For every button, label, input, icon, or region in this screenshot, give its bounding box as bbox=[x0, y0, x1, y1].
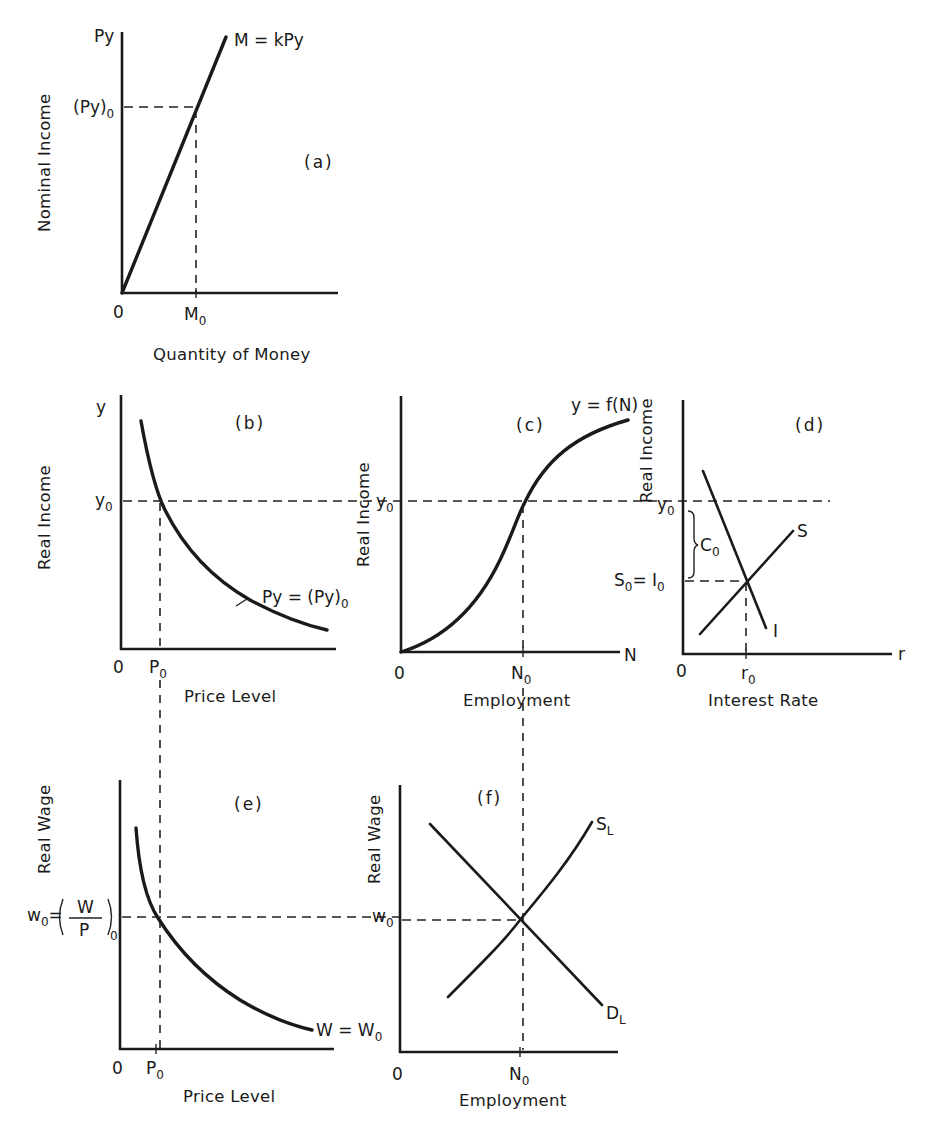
panel-d-y-mark-2: S0= I0 bbox=[614, 570, 665, 594]
panel-b-x-mark: P0 bbox=[149, 657, 167, 681]
panel-d-investment-label: I bbox=[773, 621, 778, 641]
panel-b-origin: 0 bbox=[113, 657, 124, 677]
panel-c: (c) y = f(N) y0 N 0 N0 Employment Real I… bbox=[354, 395, 638, 1050]
panel-a-y-mark: (Py)0 bbox=[73, 97, 114, 121]
panel-d-x-mark: r0 bbox=[741, 663, 756, 687]
panel-b-y-mark: y0 bbox=[95, 490, 113, 514]
panel-a-money-demand-line bbox=[122, 37, 226, 293]
svg-text:P: P bbox=[79, 920, 89, 940]
panel-b-tag: (b) bbox=[235, 413, 265, 433]
panel-c-origin: 0 bbox=[394, 663, 405, 683]
panel-b-y-axis-top-label: y bbox=[96, 397, 106, 417]
panel-a: Py (Py)0 M = kPy (a) 0 M0 Quantity of Mo… bbox=[35, 26, 338, 364]
panel-c-y-mark: y0 bbox=[376, 491, 394, 515]
panel-f-origin: 0 bbox=[392, 1064, 403, 1084]
panel-b-y-axis-title: Real Income bbox=[35, 465, 54, 570]
panel-f-x-axis-title: Employment bbox=[459, 1091, 567, 1110]
panel-e-y-mark: w0= W P 0 bbox=[27, 897, 118, 943]
panel-e-x-axis-title: Price Level bbox=[183, 1087, 275, 1106]
panel-a-y-axis-title: Nominal Income bbox=[35, 94, 54, 232]
panel-b-label-pointer bbox=[236, 599, 247, 606]
panel-f-supply-label: SL bbox=[596, 814, 614, 838]
svg-text:0: 0 bbox=[110, 929, 118, 943]
panel-d-tag: (d) bbox=[795, 415, 825, 435]
panel-f-x-mark: N0 bbox=[509, 1064, 529, 1088]
panel-f-tag: (f) bbox=[477, 788, 502, 808]
panel-e-nominal-wage-curve bbox=[136, 828, 312, 1030]
panel-a-curve-label: M = kPy bbox=[234, 30, 304, 50]
panel-d: (d) y0 C0 S0= I0 S I r 0 r0 Interest Rat… bbox=[614, 398, 905, 710]
panel-d-origin: 0 bbox=[676, 661, 687, 681]
panel-e-x-mark: P0 bbox=[146, 1058, 164, 1082]
panel-c-x-axis-title: Employment bbox=[463, 691, 571, 710]
panel-d-x-axis-end: r bbox=[898, 644, 905, 664]
panel-a-y-axis-top-label: Py bbox=[94, 26, 114, 46]
panel-c-x-axis-end: N bbox=[624, 645, 637, 665]
panel-e: (e) w0= W P 0 W = W0 0 P0 Price Level Re… bbox=[27, 780, 405, 1106]
panel-b-x-axis-title: Price Level bbox=[184, 687, 276, 706]
panel-e-tag: (e) bbox=[234, 794, 264, 814]
svg-text:w0=: w0= bbox=[27, 905, 63, 929]
panel-b-curve-label: Py = (Py)0 bbox=[262, 587, 349, 611]
panel-a-x-axis-title: Quantity of Money bbox=[153, 345, 311, 364]
panel-d-x-axis-title: Interest Rate bbox=[708, 691, 819, 710]
panel-c-production-function-curve bbox=[401, 420, 628, 652]
panel-e-origin: 0 bbox=[112, 1058, 123, 1078]
panel-a-x-mark: M0 bbox=[184, 304, 206, 328]
svg-text:W: W bbox=[77, 897, 94, 917]
panel-f-y-axis-title: Real Wage bbox=[365, 794, 384, 884]
panel-d-brace-label: C0 bbox=[700, 535, 720, 559]
panel-f: (f) SL DL w0 0 N0 Employment Real Wage bbox=[365, 785, 626, 1110]
panel-c-y-axis-title: Real Income bbox=[354, 462, 373, 567]
panel-d-savings-label: S bbox=[797, 521, 808, 541]
classical-model-diagram: Py (Py)0 M = kPy (a) 0 M0 Quantity of Mo… bbox=[0, 0, 936, 1142]
panel-f-labor-demand-line bbox=[430, 824, 602, 1005]
panel-a-tag: (a) bbox=[304, 152, 334, 172]
panel-d-y-axis-title: Real Income bbox=[637, 398, 656, 503]
panel-c-curve-label: y = f(N) bbox=[571, 395, 638, 415]
panel-d-y-mark: y0 bbox=[657, 494, 675, 518]
panel-e-y-axis-title: Real Wage bbox=[35, 784, 54, 874]
panel-f-demand-label: DL bbox=[606, 1003, 626, 1027]
panel-d-consumption-brace bbox=[688, 511, 698, 578]
panel-f-y-mark: w0 bbox=[372, 906, 394, 930]
panel-c-tag: (c) bbox=[516, 415, 545, 435]
panel-c-x-mark: N0 bbox=[511, 663, 531, 687]
panel-a-origin: 0 bbox=[113, 302, 124, 322]
panel-e-curve-label: W = W0 bbox=[316, 1020, 382, 1044]
